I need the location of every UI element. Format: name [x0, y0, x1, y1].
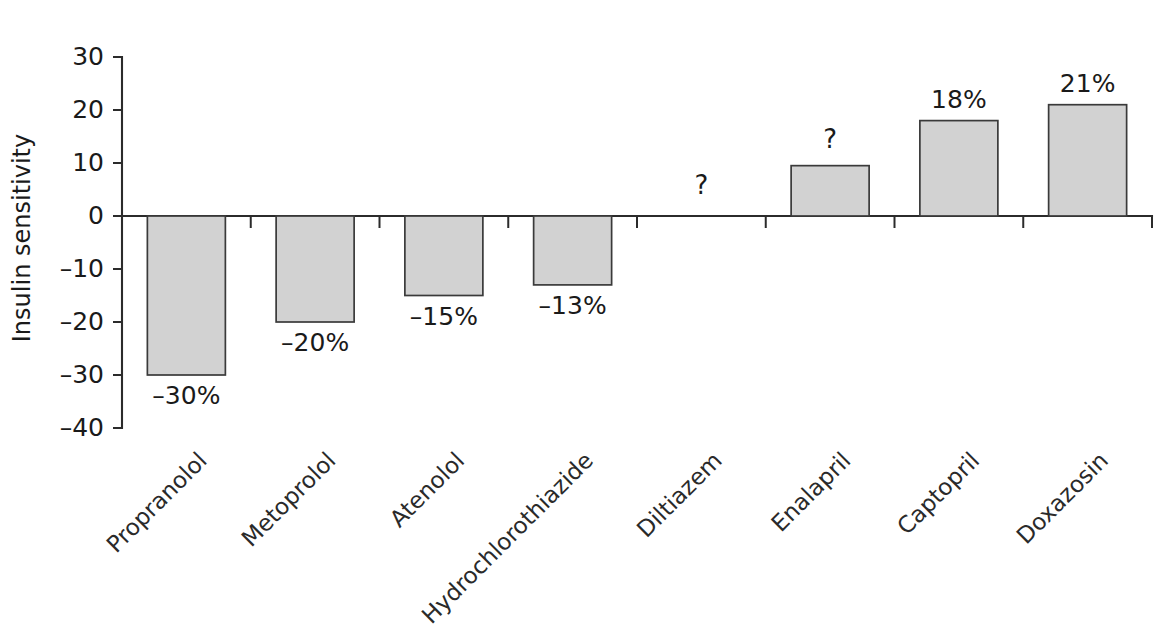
bar-value-label: –30% [152, 381, 220, 410]
x-axis-category-label: Atenolol [385, 447, 470, 532]
chart-figure: Insulin sensitivity 3020100–10–20–30–40 … [0, 0, 1173, 644]
bar [791, 166, 869, 216]
y-axis-tick-label: 0 [88, 201, 104, 230]
bar-unknown-marker: ? [694, 170, 708, 200]
bar-value-label: –13% [539, 291, 607, 320]
bar-value-label: 21% [1060, 69, 1116, 98]
x-axis-category-label: Metoprolol [236, 447, 340, 551]
y-axis-tick-label: 30 [72, 42, 104, 71]
bar [920, 121, 998, 216]
insulin-sensitivity-bar-chart: Insulin sensitivity 3020100–10–20–30–40 … [0, 0, 1173, 644]
y-axis-tick-labels: 3020100–10–20–30–40 [60, 42, 104, 442]
bar [1049, 105, 1127, 216]
bar-value-label: –20% [281, 328, 349, 357]
x-axis-category-label: Diltiazem [632, 447, 727, 542]
x-axis-category-label: Doxazosin [1011, 447, 1113, 549]
bar-value-label: 18% [931, 85, 987, 114]
y-axis-tick-label: –10 [60, 254, 104, 283]
x-axis-category-label: Enalapril [766, 447, 855, 536]
chart-axes [113, 57, 1152, 428]
y-axis-title: Insulin sensitivity [8, 134, 36, 342]
bar [405, 216, 483, 296]
x-axis-category-labels: PropranololMetoprololAtenololHydrochloro… [102, 447, 1114, 628]
x-axis-category-label: Captopril [892, 447, 984, 539]
bar [276, 216, 354, 322]
y-axis-tick-label: 10 [72, 148, 104, 177]
x-axis-category-label: Propranolol [102, 447, 212, 557]
bar-unknown-marker: ? [823, 124, 837, 154]
bar [147, 216, 225, 375]
y-axis-tick-label: –30 [60, 360, 104, 389]
y-axis-tick-label: 20 [72, 95, 104, 124]
y-axis-tick-label: –20 [60, 307, 104, 336]
bar [534, 216, 612, 285]
bar-value-label: –15% [410, 302, 478, 331]
y-axis-tick-label: –40 [60, 413, 104, 442]
